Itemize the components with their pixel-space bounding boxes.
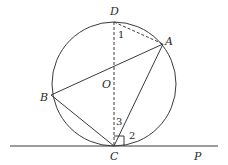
label-b: B bbox=[39, 91, 48, 104]
right-angle-marker bbox=[114, 136, 124, 146]
label-c: C bbox=[110, 150, 119, 163]
segment-bc bbox=[51, 95, 114, 146]
segment-ac bbox=[114, 44, 163, 146]
label-a: A bbox=[164, 35, 173, 48]
angle-2-label: 2 bbox=[129, 130, 135, 141]
angle-3-label: 3 bbox=[116, 116, 122, 127]
label-o: O bbox=[102, 78, 111, 91]
geometry-diagram: D A B O C P 1 2 3 bbox=[0, 0, 228, 165]
label-d: D bbox=[109, 5, 119, 18]
label-p: P bbox=[193, 150, 202, 163]
angle-1-label: 1 bbox=[118, 29, 124, 40]
